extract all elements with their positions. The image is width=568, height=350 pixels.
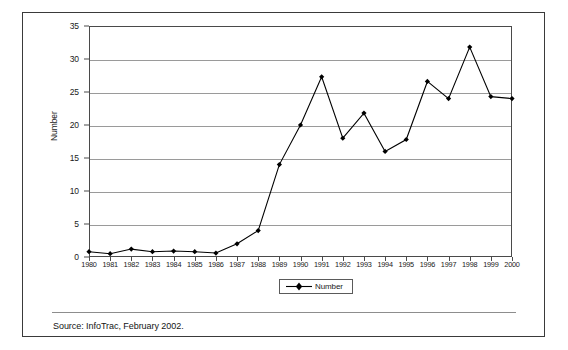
data-point-marker bbox=[150, 249, 155, 254]
x-tick-mark bbox=[110, 257, 111, 261]
x-tick-label: 1995 bbox=[399, 260, 414, 269]
data-point-marker bbox=[256, 228, 261, 233]
data-series-number bbox=[89, 26, 512, 257]
y-tick-label: 10 bbox=[70, 186, 79, 196]
data-point-marker bbox=[108, 251, 113, 256]
x-tick-label: 1981 bbox=[102, 260, 117, 269]
x-tick-label: 1990 bbox=[293, 260, 308, 269]
data-point-marker bbox=[192, 249, 197, 254]
x-tick-mark bbox=[343, 257, 344, 261]
figure-frame: Number 05101520253035 198019811982198319… bbox=[22, 12, 545, 337]
data-point-marker bbox=[171, 248, 176, 253]
data-point-marker bbox=[234, 241, 239, 246]
x-tick-label: 1989 bbox=[272, 260, 287, 269]
x-tick-mark bbox=[301, 257, 302, 261]
data-point-marker bbox=[383, 149, 388, 154]
y-tick-label: 35 bbox=[70, 21, 79, 31]
x-tick-mark bbox=[237, 257, 238, 261]
x-tick-label: 1986 bbox=[208, 260, 223, 269]
x-tick-label: 1998 bbox=[462, 260, 477, 269]
y-tick-label: 5 bbox=[74, 219, 79, 229]
data-point-marker bbox=[277, 162, 282, 167]
data-point-marker bbox=[298, 122, 303, 127]
y-tick-label: 20 bbox=[70, 120, 79, 130]
x-tick-label: 1996 bbox=[420, 260, 435, 269]
x-tick-mark bbox=[195, 257, 196, 261]
x-tick-label: 1983 bbox=[145, 260, 160, 269]
source-note: Source: InfoTrac, February 2002. bbox=[53, 321, 184, 331]
data-point-marker bbox=[488, 94, 493, 99]
x-tick-label: 1982 bbox=[124, 260, 139, 269]
x-tick-label: 1988 bbox=[250, 260, 265, 269]
x-tick-mark bbox=[279, 257, 280, 261]
legend-label-number: Number bbox=[315, 282, 343, 291]
x-tick-label: 1980 bbox=[81, 260, 96, 269]
y-axis: 05101520253035 bbox=[23, 26, 89, 257]
x-tick-mark bbox=[364, 257, 365, 261]
source-divider bbox=[52, 312, 516, 313]
series-line bbox=[89, 47, 512, 254]
data-point-marker bbox=[467, 45, 472, 50]
y-tick-label: 15 bbox=[70, 153, 79, 163]
x-tick-mark bbox=[322, 257, 323, 261]
diamond-marker-icon bbox=[286, 282, 312, 291]
data-point-marker bbox=[129, 246, 134, 251]
data-point-marker bbox=[404, 137, 409, 142]
x-tick-mark bbox=[470, 257, 471, 261]
chart-legend: Number bbox=[279, 279, 353, 294]
x-tick-mark bbox=[427, 257, 428, 261]
x-tick-mark bbox=[174, 257, 175, 261]
x-axis: 1980198119821983198419851986198719881989… bbox=[89, 260, 512, 274]
x-tick-label: 1997 bbox=[441, 260, 456, 269]
x-tick-label: 1984 bbox=[166, 260, 181, 269]
x-tick-mark bbox=[512, 257, 513, 261]
chart-plot-region: Number 05101520253035 198019811982198319… bbox=[23, 13, 546, 298]
y-tick-label: 30 bbox=[70, 54, 79, 64]
x-tick-mark bbox=[491, 257, 492, 261]
data-point-marker bbox=[213, 250, 218, 255]
x-tick-mark bbox=[258, 257, 259, 261]
x-tick-label: 1993 bbox=[356, 260, 371, 269]
y-tick-label: 25 bbox=[70, 87, 79, 97]
data-point-marker bbox=[319, 74, 324, 79]
x-tick-label: 1991 bbox=[314, 260, 329, 269]
x-tick-mark bbox=[216, 257, 217, 261]
x-tick-label: 1985 bbox=[187, 260, 202, 269]
x-tick-mark bbox=[152, 257, 153, 261]
x-tick-label: 1992 bbox=[335, 260, 350, 269]
x-tick-mark bbox=[89, 257, 90, 261]
x-tick-mark bbox=[449, 257, 450, 261]
x-tick-mark bbox=[385, 257, 386, 261]
x-tick-label: 2000 bbox=[504, 260, 519, 269]
x-tick-label: 1987 bbox=[229, 260, 244, 269]
x-tick-label: 1994 bbox=[377, 260, 392, 269]
x-tick-label: 1999 bbox=[483, 260, 498, 269]
y-tick-label: 0 bbox=[74, 252, 79, 262]
data-point-marker bbox=[509, 96, 514, 101]
x-tick-mark bbox=[131, 257, 132, 261]
x-tick-mark bbox=[406, 257, 407, 261]
